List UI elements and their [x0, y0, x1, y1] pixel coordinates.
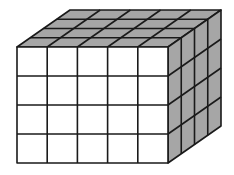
front-face [17, 47, 168, 163]
prism-diagram [0, 0, 234, 175]
unit-cube-prism [0, 0, 234, 175]
